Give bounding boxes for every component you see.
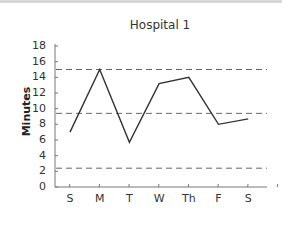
x-tick-mark [248,184,249,187]
plot-area [0,0,282,230]
x-tick-mark [99,184,100,187]
x-tick-mark [277,184,278,187]
x-tick-mark [218,184,219,187]
x-tick-mark [158,184,159,187]
x-tick-mark [69,184,70,187]
x-tick-mark [129,184,130,187]
series-line [70,70,248,143]
x-tick-mark [188,184,189,187]
